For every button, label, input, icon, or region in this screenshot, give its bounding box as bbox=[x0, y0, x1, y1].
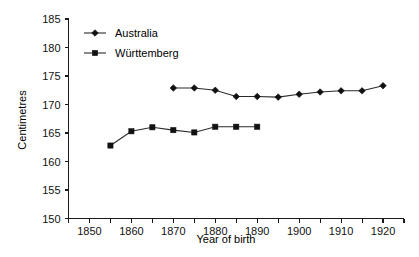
y-tick-label: 175 bbox=[42, 70, 60, 82]
series-württemberg bbox=[108, 124, 260, 148]
data-point bbox=[317, 89, 324, 96]
y-tick-label: 160 bbox=[42, 156, 60, 168]
y-axis-title: Centimetres bbox=[16, 90, 28, 150]
x-tick-label: 1920 bbox=[371, 225, 395, 237]
chart-legend: AustraliaWürttemberg bbox=[84, 27, 179, 59]
y-tick-label: 150 bbox=[42, 213, 60, 225]
data-point bbox=[254, 93, 261, 100]
data-point bbox=[150, 125, 155, 130]
series-australia bbox=[170, 82, 386, 100]
line-chart: 150155160165170175180185 185018601870188… bbox=[0, 0, 419, 257]
data-point bbox=[191, 85, 198, 92]
x-tick-label: 1910 bbox=[329, 225, 353, 237]
data-point bbox=[255, 124, 260, 129]
y-tick-label: 170 bbox=[42, 99, 60, 111]
data-point bbox=[212, 87, 219, 94]
data-point bbox=[338, 88, 345, 95]
legend-label: Württemberg bbox=[115, 47, 179, 59]
data-point bbox=[380, 82, 387, 89]
y-axis-tick-labels: 150155160165170175180185 bbox=[42, 13, 60, 225]
data-point bbox=[170, 85, 177, 92]
data-point bbox=[192, 130, 197, 135]
legend-label: Australia bbox=[115, 27, 159, 39]
y-tick-label: 180 bbox=[42, 42, 60, 54]
x-axis-ticks bbox=[69, 219, 405, 223]
series-layer bbox=[108, 82, 386, 148]
data-point bbox=[108, 143, 113, 148]
data-point bbox=[296, 91, 303, 98]
data-point bbox=[171, 128, 176, 133]
x-tick-label: 1870 bbox=[161, 225, 185, 237]
data-point bbox=[275, 94, 282, 101]
x-tick-label: 1860 bbox=[119, 225, 143, 237]
x-tick-label: 1850 bbox=[77, 225, 101, 237]
chart-container: 150155160165170175180185 185018601870188… bbox=[0, 0, 419, 257]
data-point bbox=[234, 124, 239, 129]
legend-marker bbox=[92, 50, 97, 55]
y-axis-ticks bbox=[65, 19, 69, 219]
y-tick-label: 165 bbox=[42, 127, 60, 139]
legend-marker bbox=[92, 30, 99, 37]
data-point bbox=[213, 124, 218, 129]
x-tick-label: 1900 bbox=[287, 225, 311, 237]
x-axis-title: Year of birth bbox=[197, 233, 256, 245]
y-tick-label: 155 bbox=[42, 184, 60, 196]
data-point bbox=[129, 129, 134, 134]
data-point bbox=[359, 88, 366, 95]
y-tick-label: 185 bbox=[42, 13, 60, 25]
data-point bbox=[233, 93, 240, 100]
